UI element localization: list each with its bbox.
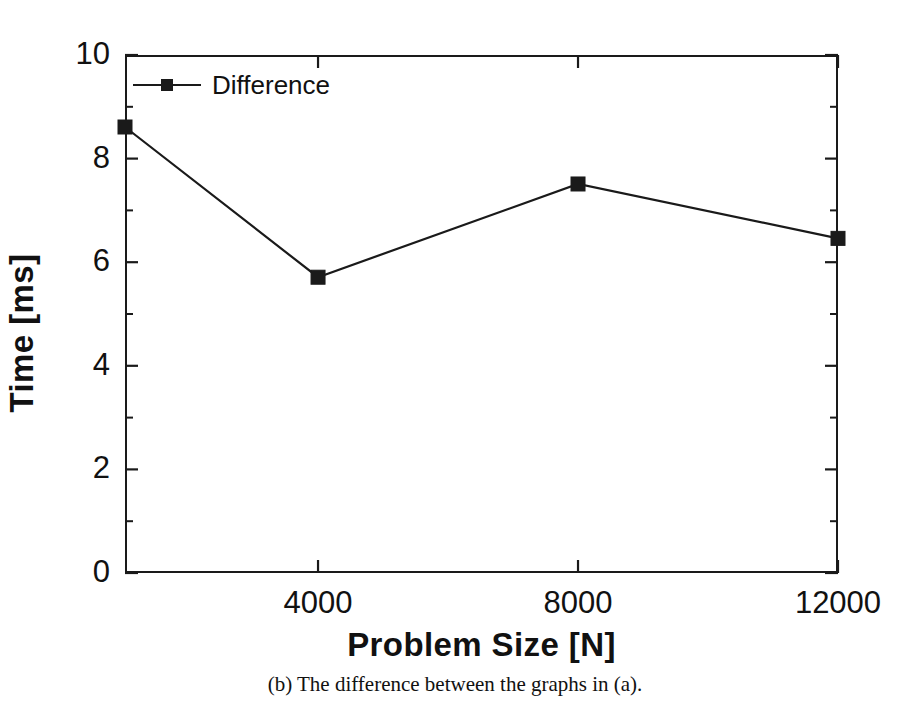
x-tick-label: 8000 <box>544 587 613 618</box>
x-tick-label: 12000 <box>795 587 881 618</box>
x-tick-label: 4000 <box>284 587 353 618</box>
figure-caption: (b) The difference between the graphs in… <box>0 672 910 697</box>
y-axis-title: Time [ms] <box>3 223 41 443</box>
legend-label-difference: Difference <box>212 72 330 98</box>
figure-container: 0246810 4000800012000 Time [ms] Problem … <box>0 0 910 713</box>
legend-line-marker-icon <box>133 75 201 95</box>
x-axis-title: Problem Size [N] <box>125 626 838 664</box>
x-axis-tick-labels: 4000800012000 <box>0 0 910 713</box>
chart-legend: Difference <box>133 72 330 98</box>
